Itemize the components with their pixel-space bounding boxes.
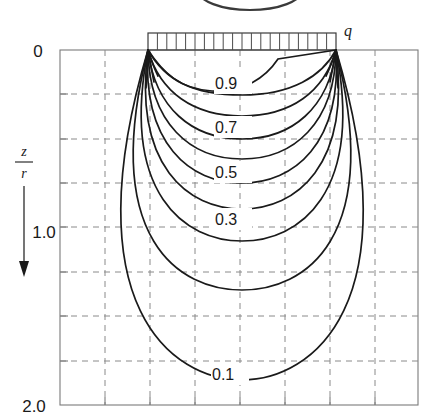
pressure-bulb-figure: 0.9 0.7 0.5 0.3 0.1 0 1.0 2.0 z r q: [0, 0, 423, 415]
contour-label-0.1-text: 0.1: [212, 366, 234, 383]
y-axis-label-2: 2.0: [22, 397, 46, 415]
contour-label-0.3-text: 0.3: [215, 211, 237, 228]
contour-label-0.9: 0.9: [214, 72, 252, 94]
y-axis-labels: 0 1.0 2.0: [22, 42, 56, 415]
contour-label-0.9-text: 0.9: [215, 75, 237, 92]
contour-label-0.3: 0.3: [214, 208, 252, 230]
depth-direction-arrow-head: [19, 261, 29, 277]
contour-label-0.1: 0.1: [211, 363, 249, 385]
contour-label-0.7-text: 0.7: [215, 119, 237, 136]
contour-label-0.5-text: 0.5: [215, 164, 237, 181]
y-axis-title-numerator: z: [20, 144, 27, 159]
contour-label-0.7: 0.7: [214, 116, 252, 138]
load-symbol-q: q: [344, 22, 352, 40]
axis-ticks: [60, 94, 375, 405]
uniform-load-strip: [148, 33, 336, 50]
contour-label-0.5: 0.5: [214, 161, 252, 183]
load-symbol-q-text: q: [344, 22, 352, 40]
y-axis-title-denominator: r: [21, 166, 27, 181]
y-axis-label-0: 0: [33, 42, 42, 61]
y-axis-title: z r: [15, 144, 33, 277]
y-axis-label-1: 1.0: [32, 223, 56, 242]
top-ellipse-arc: [198, 0, 302, 10]
